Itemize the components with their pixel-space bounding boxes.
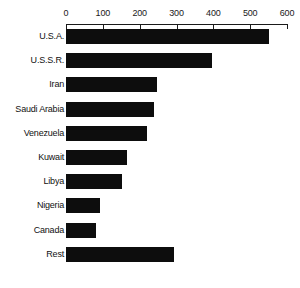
bar-nigeria xyxy=(66,198,100,213)
bar-label-kuwait: Kuwait xyxy=(38,152,64,163)
horizontal-bar-chart: 0100200300400500600 U.S.A.U.S.S.R.IranSa… xyxy=(0,0,300,288)
bar-saudi-arabia xyxy=(66,102,154,117)
bar-label-venezuela: Venezuela xyxy=(24,128,64,139)
bar-u-s-s-r xyxy=(66,53,212,68)
bar-label-rest: Rest xyxy=(46,249,64,260)
bar-row: Venezuela xyxy=(0,126,300,141)
bar-row: Saudi Arabia xyxy=(0,102,300,117)
bar-label-nigeria: Nigeria xyxy=(37,200,64,211)
x-axis-tick-label-500: 500 xyxy=(243,8,257,18)
bar-label-canada: Canada xyxy=(34,225,64,236)
bar-venezuela xyxy=(66,126,147,141)
x-axis-tick-label-400: 400 xyxy=(206,8,220,18)
bar-row: Kuwait xyxy=(0,150,300,165)
bar-iran xyxy=(66,77,157,92)
bar-label-iran: Iran xyxy=(49,79,64,90)
bar-row: Libya xyxy=(0,174,300,189)
bar-row: Canada xyxy=(0,223,300,238)
x-axis-tick-label-600: 600 xyxy=(280,8,294,18)
bar-canada xyxy=(66,223,96,238)
bar-row: U.S.S.R. xyxy=(0,53,300,68)
bar-u-s-a xyxy=(66,29,269,44)
bar-row: Nigeria xyxy=(0,198,300,213)
x-axis-tick-label-200: 200 xyxy=(132,8,146,18)
bar-rest xyxy=(66,247,174,262)
bar-row: U.S.A. xyxy=(0,29,300,44)
x-axis-tick-label-300: 300 xyxy=(169,8,183,18)
x-axis-tick-label-100: 100 xyxy=(96,8,110,18)
bar-label-libya: Libya xyxy=(43,176,64,187)
x-axis-tick-label-0: 0 xyxy=(64,8,69,18)
bar-kuwait xyxy=(66,150,127,165)
bar-row: Rest xyxy=(0,247,300,262)
bar-label-u-s-a: U.S.A. xyxy=(39,31,64,42)
bar-label-u-s-s-r: U.S.S.R. xyxy=(31,55,64,66)
bar-libya xyxy=(66,174,122,189)
bar-row: Iran xyxy=(0,77,300,92)
bar-label-saudi-arabia: Saudi Arabia xyxy=(15,104,64,115)
